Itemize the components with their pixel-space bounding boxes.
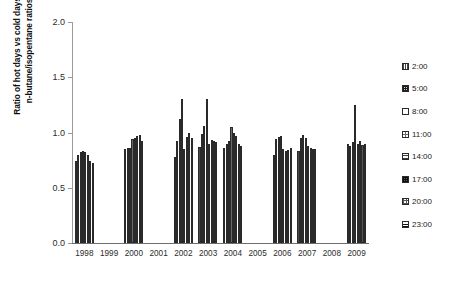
legend-item[interactable]: 20:00 bbox=[402, 191, 460, 214]
x-tick-label: 1999 bbox=[100, 249, 118, 258]
x-tick-label: 2001 bbox=[150, 249, 168, 258]
bar bbox=[290, 148, 292, 243]
x-tick-label: 2008 bbox=[323, 249, 341, 258]
legend-item[interactable]: 14:00 bbox=[402, 145, 460, 168]
legend-swatch-icon bbox=[402, 108, 409, 115]
bar bbox=[191, 138, 193, 243]
x-tick-label: 2002 bbox=[174, 249, 192, 258]
bar-chart: Ratio of hot days vs cold days of n-buta… bbox=[0, 0, 462, 299]
bar-group bbox=[122, 22, 147, 243]
x-tick-label: 2009 bbox=[348, 249, 366, 258]
bar bbox=[314, 149, 316, 243]
y-tick-label: 1.5 bbox=[52, 72, 65, 82]
bar bbox=[215, 142, 217, 243]
y-tick-label: 0.5 bbox=[52, 183, 65, 193]
bar bbox=[141, 141, 143, 243]
legend-item[interactable]: 11:00 bbox=[402, 123, 460, 146]
legend-item[interactable]: 5:00 bbox=[402, 78, 460, 101]
x-tick-label: 1998 bbox=[75, 249, 93, 258]
bar-group bbox=[97, 22, 122, 243]
bar-group bbox=[245, 22, 270, 243]
bar-group bbox=[344, 22, 369, 243]
y-tick-label: 0.0 bbox=[52, 238, 65, 248]
legend-swatch-icon bbox=[402, 153, 409, 160]
legend-item[interactable]: 2:00 bbox=[402, 55, 460, 78]
legend-item[interactable]: 17:00 bbox=[402, 168, 460, 191]
bar bbox=[92, 163, 94, 243]
y-axis-title: Ratio of hot days vs cold days of n-buta… bbox=[12, 0, 42, 164]
x-tick-label: 2000 bbox=[125, 249, 143, 258]
y-tick-label: 1.0 bbox=[52, 128, 65, 138]
legend-label: 20:00 bbox=[412, 197, 432, 206]
chart-legend: 2:005:008:0011:0014:0017:0020:0023:00 bbox=[402, 55, 460, 236]
legend-label: 11:00 bbox=[412, 130, 431, 139]
bar-group bbox=[196, 22, 221, 243]
legend-swatch-icon bbox=[402, 63, 409, 70]
bar-group bbox=[295, 22, 320, 243]
legend-swatch-icon bbox=[402, 85, 409, 92]
legend-label: 14:00 bbox=[412, 152, 432, 161]
bar-group bbox=[221, 22, 246, 243]
legend-swatch-icon bbox=[402, 131, 409, 138]
legend-label: 8:00 bbox=[412, 107, 428, 116]
legend-label: 2:00 bbox=[412, 62, 428, 71]
x-tick-label: 2005 bbox=[249, 249, 267, 258]
bar bbox=[240, 146, 242, 243]
plot-area: 0.00.51.01.52.0 199819992000200120022003… bbox=[72, 22, 369, 243]
bar-group bbox=[270, 22, 295, 243]
bar bbox=[364, 144, 366, 243]
bar-group bbox=[171, 22, 196, 243]
y-tick-mark bbox=[68, 243, 72, 244]
x-axis-line bbox=[72, 243, 369, 244]
legend-swatch-icon bbox=[402, 221, 409, 228]
x-tick-label: 2004 bbox=[224, 249, 242, 258]
x-tick-label: 2007 bbox=[298, 249, 316, 258]
legend-swatch-icon bbox=[402, 198, 409, 205]
y-tick-label: 2.0 bbox=[52, 17, 65, 27]
bar-group bbox=[72, 22, 97, 243]
legend-item[interactable]: 8:00 bbox=[402, 100, 460, 123]
legend-swatch-icon bbox=[402, 176, 409, 183]
legend-label: 17:00 bbox=[412, 175, 432, 184]
x-tick-label: 2003 bbox=[199, 249, 217, 258]
legend-label: 23:00 bbox=[412, 220, 432, 229]
x-tick-label: 2006 bbox=[273, 249, 291, 258]
legend-label: 5:00 bbox=[412, 84, 428, 93]
bar-group bbox=[146, 22, 171, 243]
legend-item[interactable]: 23:00 bbox=[402, 213, 460, 236]
bar-group bbox=[320, 22, 345, 243]
